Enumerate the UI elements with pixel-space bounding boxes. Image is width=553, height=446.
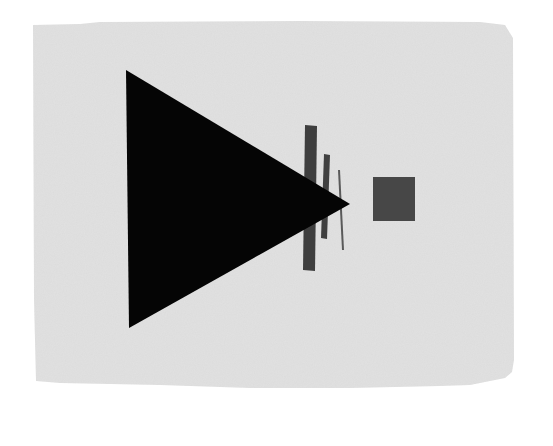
- artwork-canvas: Suprematist composition: large black tri…: [0, 0, 553, 446]
- suprematist-artwork: [0, 0, 553, 446]
- gray-square: [373, 177, 415, 221]
